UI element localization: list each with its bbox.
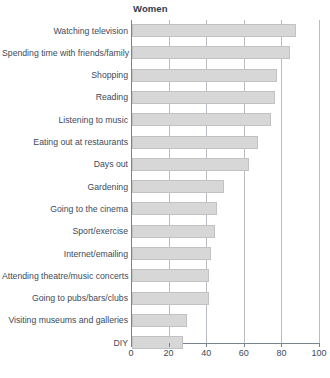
bar-row xyxy=(131,24,319,37)
tick-mark-100 xyxy=(319,343,320,347)
category-label: Reading xyxy=(2,92,128,102)
tick-label-0: 0 xyxy=(128,348,133,358)
category-label: Attending theatre/music concerts xyxy=(2,271,128,281)
x-axis-ticks: 020406080100 xyxy=(131,343,319,363)
tick-label-80: 80 xyxy=(276,348,286,358)
bar-row xyxy=(131,180,319,193)
category-label: Shopping xyxy=(2,70,128,80)
bar xyxy=(132,292,209,305)
bar xyxy=(132,180,224,193)
bar-row xyxy=(131,247,319,260)
bar-row xyxy=(131,225,319,238)
chart-title: Women xyxy=(133,3,168,14)
category-label: Gardening xyxy=(2,182,128,192)
bar-row xyxy=(131,113,319,126)
bar-row xyxy=(131,202,319,215)
tick-mark-0 xyxy=(131,343,132,347)
bar xyxy=(132,314,187,327)
bar xyxy=(132,24,296,37)
category-label: Sport/exercise xyxy=(2,226,128,236)
category-label: Watching television xyxy=(2,26,128,36)
tick-label-40: 40 xyxy=(201,348,211,358)
bar xyxy=(132,69,277,82)
bar xyxy=(132,113,271,126)
bar xyxy=(132,136,258,149)
category-label: DIY xyxy=(2,338,128,348)
tick-mark-20 xyxy=(169,343,170,347)
bar-row xyxy=(131,46,319,59)
category-label: Going to pubs/bars/clubs xyxy=(2,293,128,303)
bar-row xyxy=(131,91,319,104)
bar-chart: Women Watching televisionSpending time w… xyxy=(0,0,330,378)
tick-mark-60 xyxy=(244,343,245,347)
tick-label-100: 100 xyxy=(311,348,326,358)
gridline-100 xyxy=(319,20,320,343)
tick-label-60: 60 xyxy=(239,348,249,358)
tick-mark-80 xyxy=(281,343,282,347)
bar-row xyxy=(131,269,319,282)
bar xyxy=(132,202,217,215)
bar-row xyxy=(131,136,319,149)
category-label: Going to the cinema xyxy=(2,204,128,214)
bar xyxy=(132,46,290,59)
tick-label-20: 20 xyxy=(164,348,174,358)
plot-area xyxy=(131,20,319,343)
bar xyxy=(132,247,211,260)
bar xyxy=(132,91,275,104)
bar-row xyxy=(131,158,319,171)
category-label: Visiting museums and galleries xyxy=(2,315,128,325)
category-label-list: Watching televisionSpending time with fr… xyxy=(0,20,128,343)
category-label: Days out xyxy=(2,159,128,169)
bar-row xyxy=(131,292,319,305)
category-label: Internet/emailing xyxy=(2,249,128,259)
bar xyxy=(132,269,209,282)
category-label: Eating out at restaurants xyxy=(2,137,128,147)
category-label: Listening to music xyxy=(2,115,128,125)
bar xyxy=(132,158,249,171)
bar-row xyxy=(131,69,319,82)
tick-mark-40 xyxy=(206,343,207,347)
bar-row xyxy=(131,314,319,327)
bar xyxy=(132,225,215,238)
category-label: Spending time with friends/family xyxy=(2,48,128,58)
